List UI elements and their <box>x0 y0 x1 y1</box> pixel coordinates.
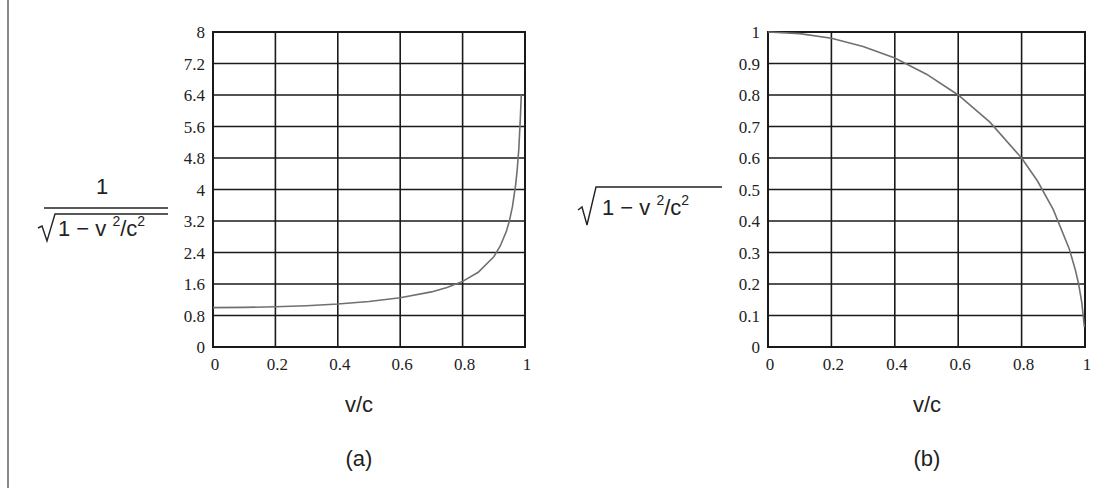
denom-sup1: 2 <box>112 213 120 229</box>
x-tick-label: 0.6 <box>950 355 971 374</box>
chart-b-grid <box>768 32 1085 347</box>
chart-a-xlabel: v/c <box>345 392 373 417</box>
chart-b-curve <box>768 32 1084 327</box>
chart-a-ylabel-numerator: 1 <box>96 174 108 199</box>
y-tick-label: 7.2 <box>184 55 205 74</box>
chart-a-x-ticks: 00.20.40.60.81 <box>211 355 532 374</box>
y-tick-label: 0.9 <box>739 55 760 74</box>
y-tick-label: 3.2 <box>184 212 205 231</box>
chart-a-grid <box>213 32 525 347</box>
chart-b-panel-label: (b) <box>914 446 941 471</box>
y-tick-label: 0.4 <box>739 212 761 231</box>
chart-a-ylabel-denominator: 1 − v 2/c2 <box>58 213 145 241</box>
y-tick-label: 2.4 <box>184 244 206 263</box>
denom-prefix: 1 − v <box>58 216 112 241</box>
y-tick-label: 4.8 <box>184 149 205 168</box>
ylabel-sup1: 2 <box>656 192 664 208</box>
y-tick-label: 0.3 <box>739 244 760 263</box>
chart-b-ylabel-text: 1 − v 2/c2 <box>602 192 689 220</box>
y-tick-label: 5.6 <box>184 118 205 137</box>
y-tick-label: 0.8 <box>184 307 205 326</box>
x-tick-label: 0 <box>211 355 220 374</box>
x-tick-label: 0.8 <box>1013 355 1034 374</box>
y-tick-label: 0.8 <box>739 86 760 105</box>
x-tick-label: 0.2 <box>267 355 288 374</box>
y-tick-label: 0.6 <box>739 149 760 168</box>
y-tick-label: 0 <box>197 338 206 357</box>
x-tick-label: 0.4 <box>329 355 351 374</box>
y-tick-label: 0.5 <box>739 181 760 200</box>
denom-sup2: 2 <box>137 213 145 229</box>
y-tick-label: 0.1 <box>739 307 760 326</box>
x-tick-label: 0.4 <box>886 355 908 374</box>
ylabel-mid: /c <box>664 195 681 220</box>
y-tick-label: 0.7 <box>739 118 761 137</box>
x-tick-label: 0.6 <box>392 355 413 374</box>
y-tick-label: 1 <box>752 23 761 42</box>
denom-mid: /c <box>120 216 137 241</box>
chart-a-y-ticks: 00.81.62.43.244.85.66.47.28 <box>184 23 206 357</box>
chart-b-ylabel: 1 − v 2/c2 <box>578 187 722 225</box>
y-tick-label: 0 <box>752 338 761 357</box>
y-tick-label: 0.2 <box>739 275 760 294</box>
x-tick-label: 1 <box>1083 355 1092 374</box>
x-tick-label: 1 <box>523 355 532 374</box>
x-tick-label: 0.8 <box>454 355 475 374</box>
chart-a-panel-label: (a) <box>346 446 373 471</box>
chart-b-xlabel: v/c <box>913 392 941 417</box>
figure: 00.81.62.43.244.85.66.47.28 00.20.40.60.… <box>0 0 1117 488</box>
ylabel-prefix: 1 − v <box>602 195 656 220</box>
chart-b: 00.10.20.30.40.50.60.70.80.91 00.20.40.6… <box>578 23 1091 471</box>
y-tick-label: 1.6 <box>184 275 205 294</box>
chart-b-x-ticks: 00.20.40.60.81 <box>766 355 1092 374</box>
chart-a-ylabel: 1 1 − v 2/c2 <box>38 174 168 241</box>
chart-a: 00.81.62.43.244.85.66.47.28 00.20.40.60.… <box>38 23 531 471</box>
y-tick-label: 4 <box>197 181 206 200</box>
y-tick-label: 8 <box>197 23 206 42</box>
x-tick-label: 0 <box>766 355 775 374</box>
ylabel-sup2: 2 <box>681 192 689 208</box>
x-tick-label: 0.2 <box>823 355 844 374</box>
y-tick-label: 6.4 <box>184 86 206 105</box>
chart-b-y-ticks: 00.10.20.30.40.50.60.70.80.91 <box>739 23 761 357</box>
